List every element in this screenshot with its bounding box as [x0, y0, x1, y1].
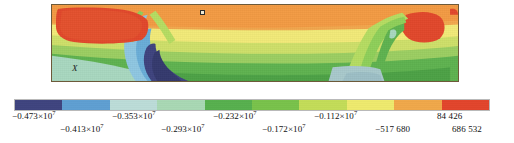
colorbar-tick-6: −0.112×107 [314, 112, 357, 121]
colorbar-segments [14, 99, 490, 111]
colorbar-tick-0: −0.473×107 [12, 112, 56, 121]
colorbar-tick-1: −0.413×107 [60, 125, 104, 134]
colorbar-tick-4: −0.232×107 [213, 112, 257, 121]
contour-plot [51, 4, 459, 82]
colorbar-segment-8 [394, 100, 441, 110]
colorbar-tick-labels: −0.473×107 −0.413×107 −0.353×107 −0.293×… [0, 112, 514, 142]
colorbar-segment-4 [205, 100, 252, 110]
colorbar-segment-5 [252, 100, 299, 110]
colorbar-tick-9: 686 532 [452, 125, 482, 134]
colorbar-segment-9 [442, 100, 489, 110]
colorbar-tick-5: −0.172×107 [262, 125, 306, 134]
colorbar-tick-3: −0.293×107 [161, 125, 205, 134]
colorbar-tick-8: 84 426 [437, 112, 462, 121]
colorbar [14, 99, 490, 111]
contour-plot-canvas [52, 5, 458, 81]
figure-container: X −0.473×107 −0.413×107 −0.353×107 −0.29… [0, 0, 514, 143]
colorbar-segment-3 [157, 100, 204, 110]
colorbar-segment-6 [299, 100, 346, 110]
colorbar-tick-2: −0.353×107 [112, 112, 156, 121]
colorbar-segment-1 [62, 100, 109, 110]
node-marker-icon [200, 10, 205, 15]
boundary-wedge-icon [104, 79, 126, 82]
colorbar-segment-2 [110, 100, 157, 110]
axis-x-label: X [72, 64, 78, 73]
colorbar-tick-7: −517 680 [375, 125, 410, 134]
